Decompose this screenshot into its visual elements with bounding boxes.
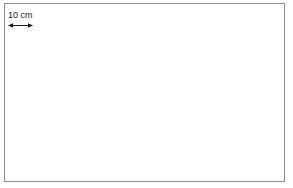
scale-bar-label: 10 cm (8, 10, 33, 20)
double-headed-arrow-icon (8, 22, 33, 29)
grid-area-figure: 10 cm (0, 0, 293, 188)
scale-bar: 10 cm (7, 10, 67, 32)
